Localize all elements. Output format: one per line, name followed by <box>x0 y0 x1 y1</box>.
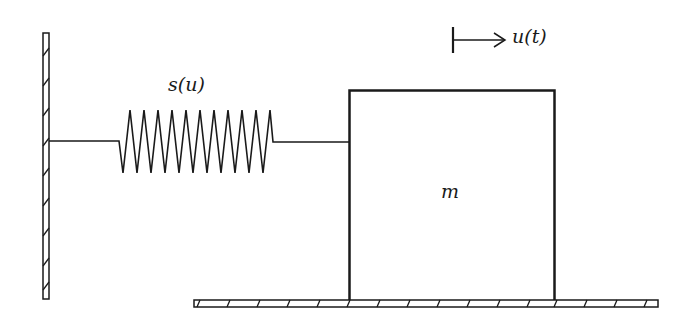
mass-spring-diagram <box>0 0 694 324</box>
spring-label: s(u) <box>168 75 205 94</box>
floor <box>194 300 658 307</box>
displacement-arrow-icon <box>453 27 505 53</box>
wall <box>43 33 49 299</box>
mass-label: m <box>441 182 459 201</box>
displacement-label: u(t) <box>512 27 547 46</box>
spring <box>49 110 349 173</box>
